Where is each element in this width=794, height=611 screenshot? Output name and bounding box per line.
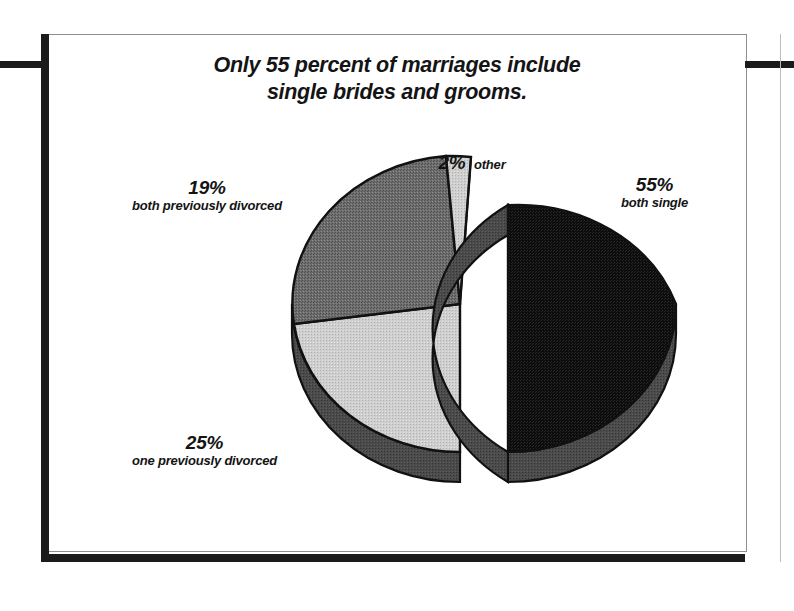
slice-label-other-description: other [474,157,506,172]
slice-label-both-previously-divorced: 19% both previously divorced [82,177,332,214]
slice-label-both-previously-divorced-percent: 19% [82,177,332,198]
slice-label-both-single: 55% both single [567,174,742,211]
slice-label-both-previously-divorced-description: both previously divorced [82,198,332,214]
frame-right-rule [780,34,781,562]
pie-chart-graphic [47,34,747,552]
pie-slice-both-single[interactable] [433,205,676,482]
slice-label-one-previously-divorced-percent: 25% [72,432,337,453]
slice-label-one-previously-divorced-description: one previously divorced [72,453,337,469]
slice-label-both-single-percent: 55% [567,174,742,195]
slice-label-other-percent: 2% [438,152,465,173]
frame-left-stub [0,61,45,68]
slice-label-both-single-description: both single [567,195,742,211]
frame-right-stub [745,61,794,68]
poster-canvas: Only 55 percent of marriages include sin… [0,0,794,611]
slice-label-one-previously-divorced: 25% one previously divorced [72,432,337,469]
frame-bottom-bar [41,554,745,562]
pie-chart: 2% other 19% both previously divorced 55… [47,34,747,552]
slice-label-other: 2% other [362,152,582,173]
